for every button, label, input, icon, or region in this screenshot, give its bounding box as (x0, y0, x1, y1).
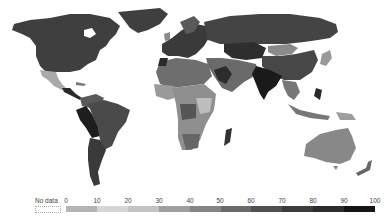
legend-bin-0-10[interactable] (66, 206, 97, 212)
region-greenland[interactable] (118, 8, 168, 33)
region-southeast-asia[interactable] (282, 80, 300, 100)
region-tasmania (333, 166, 338, 170)
region-central-america[interactable] (62, 88, 82, 100)
region-uk (164, 32, 170, 41)
legend-tick-30: 30 (155, 197, 162, 204)
legend-bin-90-100[interactable] (344, 206, 375, 212)
legend-bin-80-90[interactable] (313, 206, 344, 212)
legend-tick-10: 10 (93, 197, 100, 204)
world-map (0, 0, 391, 196)
cut-off-footer (35, 213, 95, 216)
region-papua (336, 112, 356, 120)
legend-bin-50-60[interactable] (221, 206, 252, 212)
legend-tick-20: 20 (124, 197, 131, 204)
legend-tick-70: 70 (278, 197, 285, 204)
legend-tick-0: 0 (64, 197, 68, 204)
legend-tick-60: 60 (247, 197, 254, 204)
legend-bin-70-80[interactable] (282, 206, 313, 212)
region-caribbean (76, 82, 86, 86)
legend-tick-80: 80 (309, 197, 316, 204)
legend-bin-30-40[interactable] (159, 206, 190, 212)
legend-bin-60-70[interactable] (251, 206, 282, 212)
legend-tick-100: 100 (370, 197, 381, 204)
region-japan[interactable] (320, 50, 332, 66)
legend-bin-20-30[interactable] (128, 206, 159, 212)
region-indonesia[interactable] (288, 104, 330, 120)
legend-tick-40: 40 (186, 197, 193, 204)
no-data-swatch (35, 206, 61, 213)
region-middle-east[interactable] (206, 58, 258, 92)
legend-color-bar (66, 206, 375, 212)
no-data-label: No data (35, 197, 58, 204)
region-australia[interactable] (304, 128, 356, 164)
legend-tick-50: 50 (216, 197, 223, 204)
legend-bin-10-20[interactable] (97, 206, 128, 212)
region-philippines (314, 88, 322, 100)
region-central-asia[interactable] (224, 42, 266, 60)
region-north-america[interactable] (12, 14, 120, 72)
region-congo (180, 104, 196, 120)
legend-tick-90: 90 (340, 197, 347, 204)
region-madagascar[interactable] (224, 128, 232, 146)
region-mongolia[interactable] (268, 44, 298, 56)
region-mexico[interactable] (40, 70, 66, 90)
legend-bin-40-50[interactable] (190, 206, 221, 212)
region-russia[interactable] (204, 14, 338, 44)
region-new-zealand[interactable] (356, 160, 372, 176)
